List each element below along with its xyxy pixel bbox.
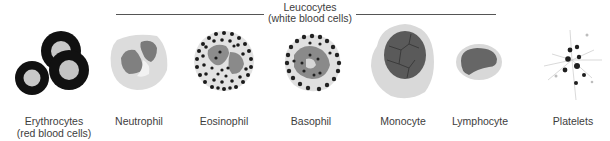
monocyte-illustration (369, 22, 439, 102)
leucocytes-bracket-right-line (356, 14, 496, 15)
neutrophil-label: Neutrophil (104, 115, 174, 127)
eosinophil-illustration (192, 30, 256, 94)
lymphocyte-label: Lymphocyte (443, 115, 517, 127)
neutrophil-illustration (107, 30, 171, 94)
erythrocytes-illustration (10, 28, 110, 128)
platelets-illustration (532, 20, 610, 110)
rbc-cell-2 (15, 61, 49, 95)
platelets-label: Platelets (542, 115, 604, 127)
basophil-illustration (280, 31, 344, 95)
monocyte-label: Monocyte (370, 115, 436, 127)
leucocytes-subtitle: (white blood cells) (262, 13, 358, 24)
eosinophil-label: Eosinophil (188, 115, 260, 127)
leucocytes-group-label: Leucocytes (white blood cells) (262, 2, 358, 24)
basophil-label: Basophil (278, 115, 344, 127)
rbc-cell-3 (49, 50, 89, 90)
leucocytes-bracket-left-line (116, 14, 264, 15)
erythrocytes-label: Erythrocytes (red blood cells) (4, 115, 104, 139)
lymphocyte-illustration (455, 43, 505, 87)
